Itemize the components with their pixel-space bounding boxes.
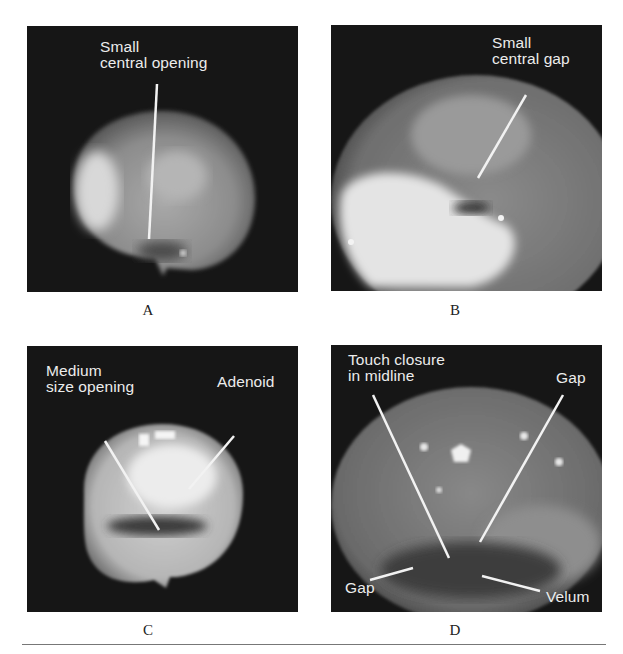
label-small-central-opening: Small central opening [100, 39, 208, 71]
endoscopy-image-a: Small central opening [27, 26, 298, 292]
label-medium-size-opening: Medium size opening [46, 363, 134, 395]
panel-caption-d: D [435, 622, 475, 639]
caption-divider-rule [22, 644, 606, 645]
endoscopy-image-c: Medium size opening Adenoid [27, 346, 298, 612]
label-gap-upper: Gap [556, 370, 586, 386]
label-touch-closure-in-midline: Touch closure in midline [348, 352, 445, 384]
endoscopy-image-b: Small central gap [331, 25, 602, 291]
label-adenoid: Adenoid [217, 374, 275, 390]
panel-caption-b: B [435, 302, 475, 319]
label-velum: Velum [546, 589, 590, 605]
panel-caption-a: A [128, 302, 168, 319]
label-gap-lower: Gap [345, 580, 375, 596]
label-small-central-gap: Small central gap [492, 35, 570, 67]
panel-caption-c: C [128, 622, 168, 639]
endoscopy-image-d: Touch closure in midline Gap Gap Velum [331, 345, 602, 612]
